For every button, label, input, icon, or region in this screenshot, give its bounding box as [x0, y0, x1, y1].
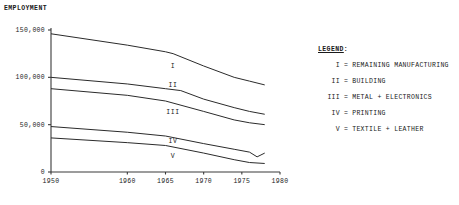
employment-line-chart: EMPLOYMENT 050,000100,000150,000 1950196… — [0, 0, 459, 205]
legend-item-v: V=TEXTILE + LEATHER — [318, 126, 458, 133]
legend-item-name: TEXTILE + LEATHER — [352, 126, 458, 133]
legend-item-symbol: II — [318, 78, 340, 85]
y-axis-tick-label: 100,000 — [0, 74, 45, 81]
legend-item-i: I=REMAINING MANUFACTURING — [318, 62, 458, 69]
legend-item-name: REMAINING MANUFACTURING — [352, 62, 458, 69]
legend-item-equals: = — [340, 110, 352, 117]
x-axis-tick-label: 1950 — [43, 178, 60, 185]
y-axis-tick-label: 50,000 — [0, 121, 45, 128]
legend: LEGEND: I=REMAINING MANUFACTURINGII=BUIL… — [318, 46, 458, 142]
series-line-v — [51, 138, 265, 164]
legend-title-colon: : — [344, 46, 348, 53]
legend-item-name: METAL + ELECTRONICS — [352, 94, 458, 101]
series-line-iv — [51, 127, 265, 157]
legend-title-text: LEGEND — [318, 46, 344, 53]
legend-item-symbol: I — [318, 62, 340, 69]
series-label-i: I — [171, 62, 176, 69]
legend-item-ii: II=BUILDING — [318, 78, 458, 85]
series-line-ii — [51, 77, 265, 114]
x-axis-tick-label: 1970 — [195, 178, 212, 185]
legend-item-equals: = — [340, 78, 352, 85]
x-axis-tick-label: 1980 — [272, 178, 289, 185]
series-line-i — [51, 34, 265, 85]
legend-item-iii: III=METAL + ELECTRONICS — [318, 94, 458, 101]
legend-item-name: BUILDING — [352, 78, 458, 85]
legend-item-equals: = — [340, 126, 352, 133]
x-axis-tick-label: 1975 — [233, 178, 250, 185]
series-line-iii — [51, 89, 265, 125]
legend-item-symbol: IV — [318, 110, 340, 117]
x-axis-tick-label: 1965 — [157, 178, 174, 185]
legend-title: LEGEND: — [318, 46, 458, 53]
series-label-iv: IV — [169, 137, 178, 144]
legend-item-equals: = — [340, 62, 352, 69]
legend-item-symbol: V — [318, 126, 340, 133]
series-label-iii: III — [166, 109, 180, 116]
x-axis-tick-label: 1960 — [119, 178, 136, 185]
legend-item-iv: IV=PRINTING — [318, 110, 458, 117]
legend-item-symbol: III — [318, 94, 340, 101]
series-label-v: V — [171, 152, 176, 159]
legend-item-name: PRINTING — [352, 110, 458, 117]
series-label-ii: II — [169, 81, 178, 88]
y-axis-tick-label: 150,000 — [0, 27, 45, 34]
legend-rows: I=REMAINING MANUFACTURINGII=BUILDINGIII=… — [318, 62, 458, 133]
data-lines — [51, 34, 265, 164]
y-axis-tick-label: 0 — [0, 169, 45, 176]
legend-item-equals: = — [340, 94, 352, 101]
